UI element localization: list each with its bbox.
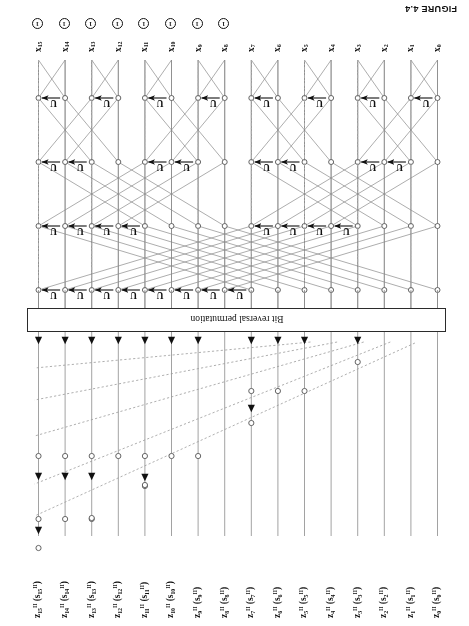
u-gate: U [369, 162, 376, 172]
node [382, 96, 387, 101]
input-label-x7: x7 [247, 44, 257, 52]
u-gate: U [50, 226, 57, 236]
output-label-z11: z11II (s11II) [140, 582, 150, 618]
output-label-z10: z10II (s10II) [167, 581, 177, 618]
node [275, 96, 280, 101]
u-gate: U [50, 162, 57, 172]
twiddle-diagonal [35, 342, 391, 484]
output-label-z1: z1II (s1II) [406, 587, 416, 618]
node [275, 388, 280, 393]
u-gate: U [236, 290, 243, 300]
u-gate: U [157, 98, 164, 108]
input-label-x15: x15 [34, 42, 44, 52]
phase-marker [248, 405, 255, 412]
node [63, 96, 68, 101]
u-gate: U [50, 290, 57, 300]
output-label-z14: z14II (s14II) [60, 581, 70, 618]
input-label-x3: x3 [353, 44, 363, 52]
phase-marker [35, 337, 42, 344]
u-gate: U [316, 226, 323, 236]
figure-rotator: Bit reversal permutation z0II (s0II)z1II… [0, 0, 469, 626]
node [275, 160, 280, 165]
input-label-x8: x8 [220, 44, 230, 52]
twiddle-diagonal [35, 342, 311, 368]
input-label-x11: x11 [140, 42, 150, 52]
node [36, 545, 41, 550]
phase-marker [301, 337, 308, 344]
phase-circle-marker: 1 [112, 18, 123, 29]
figure-caption: FIGURE 4.4 [405, 4, 457, 14]
phase-circle-marker: 1 [165, 18, 176, 29]
output-label-z9: z9II (s9II) [193, 587, 203, 618]
output-label-z2: z2II (s2II) [379, 587, 389, 618]
input-label-x10: x10 [167, 42, 177, 52]
node [169, 96, 174, 101]
output-label-z12: z12II (s12II) [113, 581, 123, 618]
node [249, 420, 254, 425]
output-label-z4: z4II (s4II) [326, 587, 336, 618]
node [36, 516, 41, 521]
bit-reversal-permutation-box: Bit reversal permutation [28, 308, 447, 332]
node [116, 96, 121, 101]
node [116, 160, 121, 165]
node [249, 388, 254, 393]
u-gate: U [210, 290, 217, 300]
node [89, 515, 94, 520]
phase-marker [168, 337, 175, 344]
phase-marker [35, 527, 42, 534]
u-gate: U [263, 162, 270, 172]
node [116, 453, 121, 458]
node [169, 224, 174, 229]
input-label-x2: x2 [380, 44, 390, 52]
node [116, 224, 121, 229]
u-gate: U [316, 98, 323, 108]
phase-marker [141, 337, 148, 344]
node [196, 453, 201, 458]
node [382, 160, 387, 165]
node [142, 482, 147, 487]
input-label-x0: x0 [433, 44, 443, 52]
input-label-x4: x4 [327, 44, 337, 52]
u-gate: U [396, 162, 403, 172]
u-gate: U [130, 226, 137, 236]
input-label-x14: x14 [61, 42, 71, 52]
u-gate: U [183, 162, 190, 172]
node [275, 224, 280, 229]
node [329, 96, 334, 101]
u-gate: U [263, 98, 270, 108]
node [435, 224, 440, 229]
u-gate: U [103, 226, 110, 236]
input-label-x6: x6 [273, 44, 283, 52]
output-label-z15: z15II (s15II) [34, 581, 44, 618]
u-gate: U [157, 162, 164, 172]
u-gate: U [183, 290, 190, 300]
phase-marker [274, 337, 281, 344]
output-label-z3: z3II (s3II) [353, 587, 363, 618]
u-gate: U [77, 290, 84, 300]
node [329, 160, 334, 165]
phase-marker [115, 337, 122, 344]
figure-canvas: Bit reversal permutation z0II (s0II)z1II… [0, 0, 469, 626]
output-label-z13: z13II (s13II) [87, 581, 97, 618]
output-label-z0: z0II (s0II) [433, 587, 443, 618]
node [302, 388, 307, 393]
node [435, 96, 440, 101]
node [169, 453, 174, 458]
u-gate: U [210, 98, 217, 108]
u-gate: U [103, 290, 110, 300]
node [36, 453, 41, 458]
phase-marker [195, 337, 202, 344]
node [435, 160, 440, 165]
u-gate: U [130, 290, 137, 300]
input-label-x5: x5 [300, 44, 310, 52]
u-gate: U [77, 226, 84, 236]
node [63, 160, 68, 165]
u-gate: U [103, 98, 110, 108]
u-gate: U [290, 162, 297, 172]
u-gate: U [263, 226, 270, 236]
node [142, 453, 147, 458]
node [63, 224, 68, 229]
u-gate: U [369, 98, 376, 108]
phase-circle-marker: 1 [59, 18, 70, 29]
phase-marker [141, 474, 148, 481]
